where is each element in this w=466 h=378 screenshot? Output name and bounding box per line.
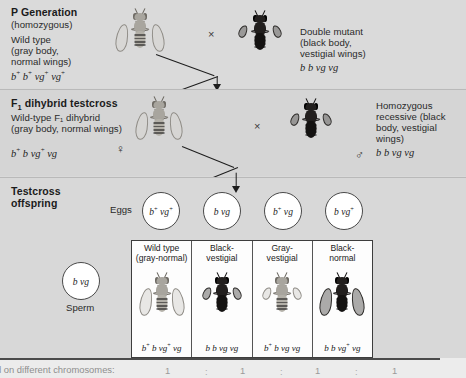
f1-female-line2: (gray body, normal wings)	[11, 123, 122, 135]
fly-f1-dihybrid-female	[138, 96, 180, 150]
egg-gamete-2-genotype: b vg	[214, 206, 230, 217]
offspring-4-name: Black- normal	[329, 244, 355, 263]
egg-gamete-1: b+ vg+	[142, 192, 180, 230]
p-cross-symbol: ×	[208, 28, 214, 40]
wing-left	[237, 24, 249, 39]
wing-left	[138, 287, 154, 317]
offspring-2-name: Black- vestigial	[206, 244, 237, 263]
f1-female-line1: Wild-type F₁ dihybrid	[11, 112, 100, 124]
offspring-3-name: Gray- vestigial	[267, 244, 298, 263]
p-parent1-line1: Wild type	[11, 34, 51, 46]
male-symbol: ♂	[355, 148, 364, 162]
ratio-separator-2: :	[280, 366, 283, 377]
wing-left	[201, 286, 213, 301]
offspring-cell-4: Black- normal b b vg+ vg	[313, 241, 372, 357]
bottom-horizontal-rule	[0, 358, 440, 360]
fly-abdomen	[135, 31, 146, 48]
fly-offspring-gray-normal	[142, 272, 182, 320]
wing-right	[350, 287, 366, 317]
ratio-value-2: 1	[240, 365, 245, 376]
offspring-2-name-line2: vestigial	[206, 254, 237, 264]
sperm-label: Sperm	[66, 302, 94, 313]
f1-female-genotype: b+ b vg+ vg	[11, 146, 57, 159]
fly-offspring-black-vestigial	[202, 272, 242, 320]
f1-male-line4: wings)	[376, 133, 404, 145]
offspring-1-genotype: b+ b vg+ vg	[132, 342, 191, 353]
f1-male-line2: recessive (black	[376, 111, 446, 123]
section-f1-testcross: F1 dihybrid testcross Wild-type F₁ dihyb…	[0, 90, 466, 176]
f1-title-rest: dihybrid testcross	[22, 97, 118, 109]
ratio-value-3: 1	[315, 365, 320, 376]
p-parent2-line1: Double mutant	[300, 26, 363, 38]
egg-gamete-4-genotype: b vg+	[334, 205, 354, 217]
ratio-separator-1: :	[205, 366, 208, 377]
offspring-4-genotype: b b vg+ vg	[313, 342, 372, 353]
f1-male-line3: body, vestigial	[376, 122, 437, 134]
offspring-3-name-line2: vestigial	[267, 254, 298, 264]
fly-p-wild-type	[118, 8, 162, 64]
p-generation-subtitle: (homozygous)	[11, 19, 72, 31]
wing-right	[168, 111, 184, 141]
arrowhead-to-offspring	[232, 186, 240, 193]
egg-gamete-1-genotype: b+ vg+	[149, 205, 172, 217]
fly-offspring-gray-vestigial	[262, 272, 302, 320]
sperm-gamete-genotype: b vg	[73, 276, 89, 287]
bottom-caption-strip: d on different chromosomes: 1 : 1 : 1 : …	[0, 358, 466, 378]
wing-right	[321, 112, 333, 127]
offspring-1-name: Wild type (gray-normal)	[136, 244, 188, 263]
ratio-value-4: 1	[392, 365, 397, 376]
fly-p-double-mutant	[238, 10, 282, 66]
offspring-4-name-line2: normal	[329, 254, 355, 264]
egg-gamete-4: b vg+	[325, 192, 363, 230]
genetics-figure: P Generation (homozygous) Wild type (gra…	[0, 0, 466, 378]
egg-gamete-3: b+ vg	[264, 192, 302, 230]
wing-left	[134, 111, 150, 141]
offspring-3-genotype: b+ b vg vg	[253, 342, 312, 353]
wing-right	[291, 286, 303, 301]
fly-abdomen	[337, 295, 348, 312]
wing-left	[261, 286, 273, 301]
wing-right	[271, 24, 283, 39]
offspring-1-name-line2: (gray-normal)	[136, 254, 188, 264]
f1-cross-symbol: ×	[254, 120, 260, 132]
wing-right	[170, 287, 186, 317]
ratio-value-1: 1	[165, 365, 170, 376]
p-parent1-genotype: b+ b+ vg+ vg+	[11, 69, 65, 82]
offspring-punnett-grid: Wild type (gray-normal) b+ b vg+ vg Blac…	[131, 240, 373, 358]
ratio-separator-3: :	[355, 366, 358, 377]
fly-offspring-black-normal	[322, 272, 362, 320]
wing-left	[289, 112, 301, 127]
fly-abdomen	[277, 295, 288, 312]
offspring-cell-2: Black- vestigial b b vg vg	[192, 241, 252, 357]
offspring-cell-3: Gray- vestigial b+ b vg vg	[253, 241, 313, 357]
egg-gamete-2: b vg	[203, 192, 241, 230]
wing-right	[231, 286, 243, 301]
connector2-line-left	[182, 146, 234, 168]
sperm-gamete: b vg	[62, 262, 100, 300]
fly-abdomen	[154, 119, 165, 136]
p-parent1-line3: normal wings)	[11, 56, 71, 68]
egg-gamete-3-genotype: b+ vg	[273, 205, 293, 217]
p-parent2-line2: (black body,	[300, 37, 352, 49]
wing-left	[318, 287, 334, 317]
p-parent1-line2: (gray body,	[11, 45, 59, 57]
offspring-2-genotype: b b vg vg	[192, 343, 251, 353]
offspring-cell-1: Wild type (gray-normal) b+ b vg+ vg	[132, 241, 192, 357]
female-symbol: ♀	[116, 142, 125, 156]
fly-abdomen	[156, 295, 167, 312]
connector-line-left	[156, 54, 215, 77]
eggs-label: Eggs	[110, 204, 132, 215]
fly-abdomen	[306, 121, 317, 138]
fly-abdomen	[216, 295, 227, 312]
offspring-title-line2: offspring	[11, 197, 57, 209]
f1-male-line1: Homozygous	[376, 100, 433, 112]
offspring-title-line1: Testcross	[11, 185, 61, 197]
wing-right	[150, 23, 166, 53]
fly-abdomen	[255, 33, 266, 50]
p-parent2-genotype: b b vg vg	[300, 62, 338, 73]
section-p-generation: P Generation (homozygous) Wild type (gra…	[0, 0, 466, 88]
p-parent2-line3: vestigial wings)	[300, 48, 366, 60]
p-generation-title: P Generation	[11, 6, 77, 18]
f1-male-genotype: b b vg vg	[376, 147, 414, 158]
fly-f1-tester-male	[290, 98, 332, 152]
